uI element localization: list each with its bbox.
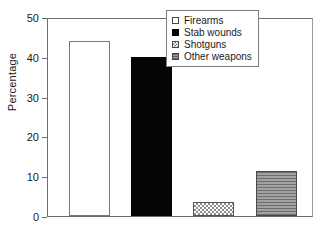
legend-item-label: Firearms [184, 15, 223, 26]
y-axis-tick: 40 [0, 58, 47, 59]
y-axis-tick-label: 30 [27, 90, 39, 106]
y-axis-tick-label: 0 [33, 209, 39, 225]
y-axis-tick: 50 [0, 18, 47, 19]
y-axis-tick-label: 40 [27, 50, 39, 66]
y-axis-tick-label: 10 [27, 169, 39, 185]
bar-stab-wounds [131, 57, 172, 216]
bar-other-weapons [256, 171, 297, 216]
y-axis-tick: 20 [0, 137, 47, 138]
y-axis-tick: 30 [0, 98, 47, 99]
legend-item: Firearms [172, 15, 252, 26]
gray-hatched-square-icon [172, 53, 179, 60]
y-axis-label: Percentage [4, 34, 20, 130]
legend-item-label: Shotguns [184, 39, 226, 50]
chart-legend: FirearmsStab woundsShotgunsOther weapons [166, 10, 259, 67]
legend-item: Shotguns [172, 39, 252, 50]
black-square-icon [172, 29, 179, 36]
y-axis-tick: 10 [0, 177, 47, 178]
bar-firearms [69, 41, 110, 216]
bar-shotguns [193, 202, 234, 216]
legend-item: Other weapons [172, 51, 252, 62]
y-axis-tick-mark [42, 217, 47, 218]
legend-item-label: Stab wounds [184, 27, 242, 38]
y-axis-tick: 0 [0, 217, 47, 218]
legend-item: Stab wounds [172, 27, 252, 38]
checkered-square-icon [172, 41, 179, 48]
legend-item-label: Other weapons [184, 51, 252, 62]
bar-chart-figure: Percentage 01020304050 FirearmsStab woun… [0, 0, 326, 235]
white-square-icon [172, 17, 179, 24]
y-axis-tick-label: 20 [27, 129, 39, 145]
y-axis-tick-label: 50 [27, 10, 39, 26]
